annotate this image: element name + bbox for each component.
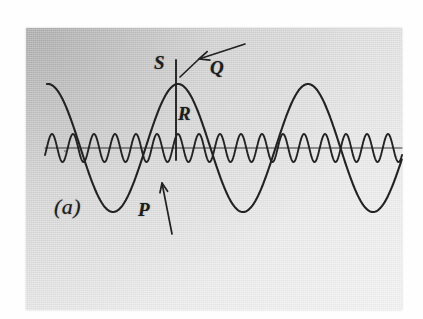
label-figure-part: (a) (54, 196, 81, 218)
wave-diagram-svg (0, 0, 423, 319)
label-s: S (154, 53, 165, 72)
p-arrow (160, 183, 172, 234)
figure-root: S Q R P (a) (0, 0, 423, 319)
label-p: P (138, 200, 150, 219)
label-q: Q (210, 58, 224, 77)
label-r: R (178, 104, 191, 123)
